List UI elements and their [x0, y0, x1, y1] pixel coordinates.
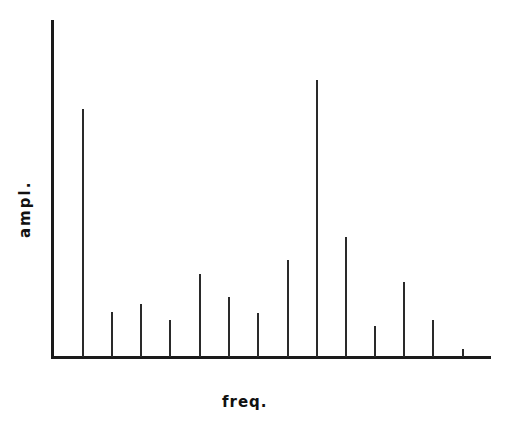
- x-axis: [51, 356, 491, 359]
- spectrum-line: [257, 313, 259, 357]
- y-axis: [51, 20, 54, 359]
- y-axis-label: ampl.: [16, 181, 34, 238]
- spectrum-line: [374, 326, 376, 357]
- spectrum-line: [432, 320, 434, 357]
- spectrum-line: [345, 237, 347, 357]
- x-axis-label: freq.: [222, 393, 268, 411]
- spectrum-line: [403, 282, 405, 357]
- spectrum-line: [111, 312, 113, 357]
- spectrum-line: [316, 80, 318, 357]
- spectrum-line: [228, 297, 230, 357]
- spectrum-line: [169, 320, 171, 357]
- spectrum-line: [82, 109, 84, 357]
- spectrum-line: [199, 274, 201, 357]
- spectrum-chart: ampl. freq.: [0, 0, 508, 438]
- spectrum-line: [462, 349, 464, 357]
- spectrum-line: [140, 304, 142, 357]
- spectrum-line: [287, 260, 289, 357]
